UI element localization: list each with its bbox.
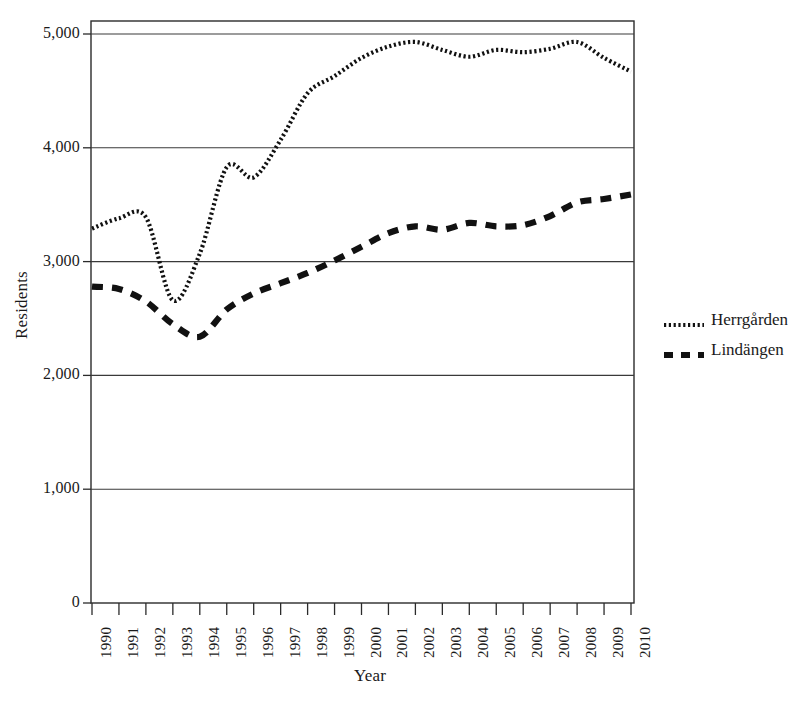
legend-label: Lindängen (711, 340, 784, 360)
dotted-line-swatch (664, 315, 704, 325)
legend-label: Herrgården (711, 310, 788, 330)
plot-frame (91, 21, 634, 603)
legend-entry-2: Lindängen (664, 340, 784, 360)
series-line-2 (92, 194, 631, 337)
dashed-line-swatch (664, 345, 704, 355)
legend-entry-1: Herrgården (664, 310, 788, 330)
